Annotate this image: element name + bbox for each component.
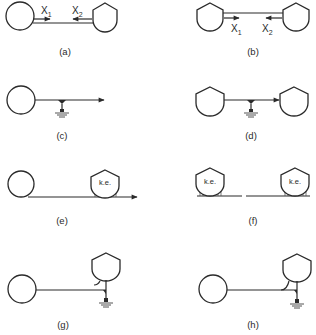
pentagon-particle-icon xyxy=(283,254,311,282)
pentagon-right-icon xyxy=(283,3,309,31)
ground-node-icon xyxy=(60,109,64,112)
caption-c: (c) xyxy=(56,130,67,141)
circle-particle-icon xyxy=(7,86,35,114)
caption-g: (g) xyxy=(57,319,69,330)
ke-label-right: k.e. xyxy=(289,177,301,186)
caption-b: (b) xyxy=(247,46,259,57)
panel-a: X1 X2 (a) xyxy=(6,2,117,57)
pentagon-left-icon xyxy=(197,3,223,31)
panel-f: k.e. k.e. (f) xyxy=(196,168,310,226)
pentagon-particle-icon xyxy=(92,253,120,281)
x2-label: X2 xyxy=(72,5,83,18)
ground-node-icon xyxy=(295,299,299,303)
circle-particle-icon xyxy=(199,275,227,303)
panel-h: (h) xyxy=(199,254,311,330)
panel-b: X1 X2 (b) xyxy=(197,3,309,57)
x2-label: X2 xyxy=(262,23,273,36)
physics-diagram: X1 X2 (a) X1 X2 (b) (c) (d) xyxy=(0,0,316,335)
panel-c: (c) xyxy=(7,86,104,141)
curved-bond-icon xyxy=(281,281,289,290)
ke-label: k.e. xyxy=(99,178,111,187)
caption-a: (a) xyxy=(59,46,71,57)
junction-marker-icon xyxy=(58,100,66,104)
circle-particle-icon xyxy=(6,2,34,30)
arc-indicator-icon xyxy=(94,281,100,285)
caption-f: (f) xyxy=(249,215,258,226)
caption-h: (h) xyxy=(247,319,259,330)
caption-d: (d) xyxy=(245,130,257,141)
panel-d: (d) xyxy=(196,87,308,141)
panel-e: k.e. (e) xyxy=(8,170,137,226)
circle-particle-icon xyxy=(8,171,34,197)
pentagon-right-icon xyxy=(280,87,308,116)
ground-node-icon xyxy=(104,298,108,302)
caption-e: (e) xyxy=(56,215,68,226)
x1-label: X1 xyxy=(41,5,52,18)
ground-node-icon xyxy=(249,109,253,112)
ke-label-left: k.e. xyxy=(204,177,216,186)
pentagon-particle-icon xyxy=(93,3,117,32)
panel-g: (g) xyxy=(8,253,120,330)
circle-particle-icon xyxy=(8,275,36,303)
junction-marker-icon xyxy=(247,100,255,104)
pentagon-left-icon xyxy=(196,87,224,116)
x1-label: X1 xyxy=(231,23,242,36)
